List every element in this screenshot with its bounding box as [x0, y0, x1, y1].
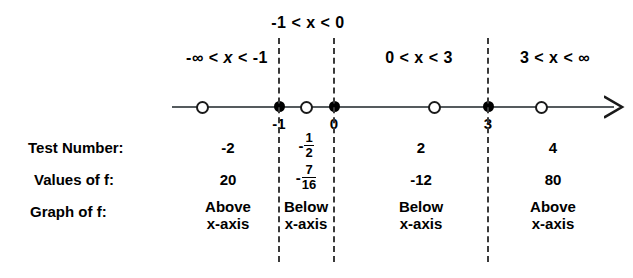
graph-axis-word: x-axis: [186, 216, 270, 233]
fraction-one-half: 12: [304, 131, 313, 159]
row-label-test-number: Test Number:: [28, 140, 124, 155]
interval-operator-left: <: [209, 49, 219, 66]
row-label-values-of-f: Values of f:: [34, 172, 114, 187]
interval-operator-left: <: [291, 14, 301, 31]
fraction-seven-sixteenths: 716: [302, 163, 316, 191]
graph-axis-word: x-axis: [266, 216, 346, 233]
cell-value-of-f-interval-3: -12: [366, 172, 476, 187]
cell-value-of-f-interval-4: 80: [503, 172, 603, 187]
fraction-minus-sign: -: [298, 137, 303, 154]
cell-graph-of-f-interval-2: Below x-axis: [266, 199, 346, 233]
test-point-marker-neg-one-half: [300, 101, 313, 114]
interval-operator-right: <: [563, 49, 573, 66]
cell-graph-of-f-interval-4: Above x-axis: [503, 199, 603, 233]
fraction-denominator: 16: [302, 178, 316, 192]
test-point-marker-four: [535, 101, 548, 114]
cell-test-number-interval-2: -12: [266, 131, 346, 159]
interval-left-bound: 0: [385, 49, 394, 66]
graph-position-word: Below: [266, 199, 346, 216]
number-line-arrowhead-icon: [604, 94, 626, 120]
interval-right-bound: 0: [335, 14, 344, 31]
interval-variable: x: [224, 49, 233, 66]
cell-test-number-interval-1: -2: [186, 140, 270, 155]
cell-graph-of-f-interval-3: Below x-axis: [366, 199, 476, 233]
test-point-marker-two: [428, 101, 441, 114]
cell-value-of-f-interval-2: -716: [266, 163, 346, 191]
interval-left-bound: -1: [271, 14, 286, 31]
graph-position-word: Above: [503, 199, 603, 216]
graph-axis-word: x-axis: [503, 216, 603, 233]
interval-operator-right: <: [238, 49, 248, 66]
interval-variable: x: [306, 14, 315, 31]
cell-graph-of-f-interval-1: Above x-axis: [186, 199, 270, 233]
graph-axis-word: x-axis: [366, 216, 476, 233]
sign-analysis-chart: -∞ < x < -1 -1 < x < 0 0 < x < 3 3 < x <…: [0, 0, 633, 278]
interval-operator-left: <: [534, 49, 544, 66]
fraction-minus-sign: -: [296, 169, 301, 186]
interval-label-neg-one-to-zero: -1 < x < 0: [252, 15, 364, 31]
interval-label-three-to-infinity: 3 < x < ∞: [495, 50, 615, 66]
interval-right-bound: 3: [443, 49, 452, 66]
interval-variable: x: [414, 49, 423, 66]
fraction-numerator: 1: [304, 131, 313, 146]
fraction-denominator: 2: [304, 146, 313, 160]
graph-position-word: Above: [186, 199, 270, 216]
interval-operator-left: <: [400, 49, 410, 66]
test-point-marker-neg-two: [196, 101, 209, 114]
cell-value-of-f-interval-1: 20: [186, 172, 270, 187]
graph-position-word: Below: [366, 199, 476, 216]
interval-right-bound: -1: [253, 49, 268, 66]
interval-right-bound: ∞: [578, 49, 590, 66]
cell-test-number-interval-4: 4: [503, 140, 603, 155]
interval-variable: x: [549, 49, 558, 66]
interval-left-bound: -∞: [186, 49, 204, 66]
cell-test-number-interval-3: 2: [366, 140, 476, 155]
interval-operator-right: <: [429, 49, 439, 66]
divider-line-three: [487, 38, 489, 262]
interval-operator-right: <: [321, 14, 331, 31]
row-label-graph-of-f: Graph of f:: [30, 204, 107, 219]
fraction-numerator: 7: [302, 163, 316, 178]
interval-left-bound: 3: [520, 49, 529, 66]
interval-label-neg-infinity-to-neg-one: -∞ < x < -1: [175, 50, 279, 66]
interval-label-zero-to-three: 0 < x < 3: [355, 50, 483, 66]
